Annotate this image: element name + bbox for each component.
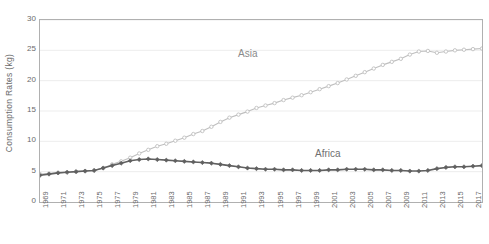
x-tick-label: 2003 — [349, 191, 357, 208]
x-tick-label: 2007 — [385, 191, 393, 208]
x-tick-label: 1979 — [132, 191, 140, 208]
x-tick-label: 1969 — [42, 191, 50, 208]
x-tick-label: 1993 — [258, 191, 266, 208]
x-tick-label: 2001 — [331, 191, 339, 208]
x-axis-tick-labels: 1969197119731975197719791981198319851987… — [0, 0, 489, 244]
x-tick-label: 1999 — [313, 191, 321, 208]
x-tick-label: 1981 — [150, 191, 158, 208]
x-tick-label: 1987 — [204, 191, 212, 208]
x-tick-label: 1985 — [186, 191, 194, 208]
x-tick-label: 1997 — [295, 191, 303, 208]
x-tick-label: 2015 — [457, 191, 465, 208]
x-tick-label: 1983 — [168, 191, 176, 208]
x-tick-label: 1989 — [222, 191, 230, 208]
x-tick-label: 2011 — [421, 192, 429, 208]
x-tick-label: 1975 — [96, 191, 104, 208]
x-tick-label: 1991 — [240, 191, 248, 208]
x-tick-label: 2009 — [403, 191, 411, 208]
x-tick-label: 1973 — [78, 191, 86, 208]
x-tick-label: 2005 — [367, 191, 375, 208]
x-tick-label: 2013 — [439, 191, 447, 208]
x-tick-label: 2017 — [475, 191, 483, 208]
x-tick-label: 1971 — [60, 191, 68, 208]
x-tick-label: 1977 — [114, 191, 122, 208]
x-tick-label: 1995 — [277, 191, 285, 208]
consumption-rates-chart: Consumption Rates (kg) 051015202530 Asia… — [0, 0, 489, 244]
